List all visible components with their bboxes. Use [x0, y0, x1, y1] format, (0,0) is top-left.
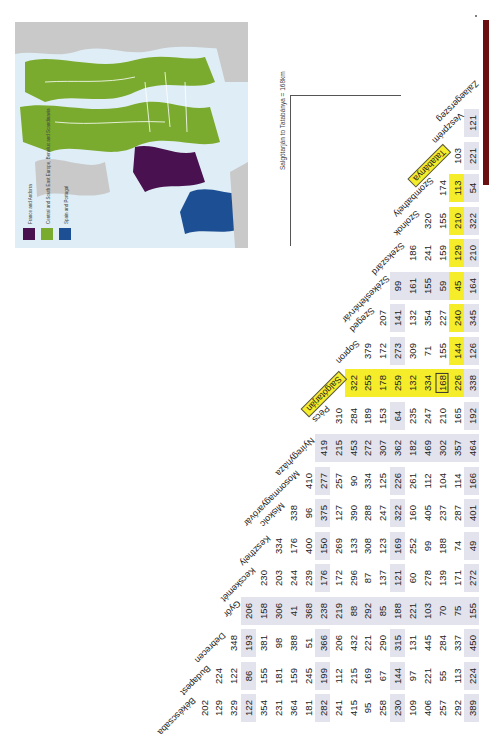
distance-value: 123 — [377, 538, 388, 554]
distance-value: 75 — [451, 605, 462, 616]
distance-cell: 338 — [285, 499, 300, 527]
distance-value: 215 — [332, 440, 343, 456]
distance-value: 419 — [317, 440, 328, 456]
distance-cell: 221 — [405, 597, 420, 625]
distance-value: 127 — [332, 505, 343, 521]
distance-value: 284 — [436, 635, 447, 651]
distance-cell: 171 — [449, 564, 464, 592]
distance-cell: 95 — [360, 694, 375, 722]
distance-value: 166 — [466, 473, 477, 489]
distance-cell: 307 — [375, 434, 390, 462]
distance-value: 164 — [466, 278, 477, 294]
distance-value: 49 — [466, 540, 477, 551]
distance-value: 464 — [466, 440, 477, 456]
distance-value: 245 — [302, 668, 313, 684]
distance-cell: 54 — [464, 174, 479, 202]
distance-cell: 273 — [390, 337, 405, 365]
distance-cell: 354 — [420, 304, 435, 332]
distance-cell: 75 — [449, 597, 464, 625]
distance-cell: 290 — [375, 629, 390, 657]
distance-cell: 322 — [345, 369, 360, 397]
distance-cell: 113 — [449, 174, 464, 202]
distance-cell: 70 — [434, 597, 449, 625]
distance-value: 181 — [302, 700, 313, 716]
distance-cell: 126 — [464, 337, 479, 365]
distance-cell: 155 — [464, 597, 479, 625]
distance-cell: 150 — [315, 532, 330, 560]
table-line-7: 41027725790334125226261112104114166 — [0, 473, 489, 489]
distance-value: 45 — [451, 280, 462, 291]
distance-cell: 292 — [360, 597, 375, 625]
distance-cell: 99 — [390, 272, 405, 300]
distance-value: 364 — [287, 700, 298, 716]
distance-cell: 224 — [211, 662, 226, 690]
distance-value: 338 — [287, 505, 298, 521]
distance-cell: 284 — [434, 629, 449, 657]
distance-value: 112 — [332, 668, 343, 683]
distance-cell: 165 — [449, 402, 464, 430]
legend-swatch-france — [23, 228, 35, 240]
distance-value: 210 — [436, 408, 447, 424]
distance-cell: 210 — [434, 402, 449, 430]
distance-value: 306 — [273, 603, 284, 619]
table-line-17: 103221 — [0, 148, 489, 164]
distance-value: 272 — [362, 440, 373, 456]
distance-value: 235 — [407, 408, 418, 424]
distance-value: 186 — [407, 245, 418, 261]
distance-cell: 381 — [256, 629, 271, 657]
distance-cell: 210 — [449, 207, 464, 235]
distance-value: 224 — [213, 668, 224, 684]
distance-value: 51 — [302, 638, 313, 649]
distance-cell: 144 — [390, 662, 405, 690]
distance-cell: 261 — [405, 467, 420, 495]
distance-cell: 241 — [330, 694, 345, 722]
distance-cell: 49 — [464, 532, 479, 560]
distance-value: 210 — [466, 245, 477, 261]
distance-cell: 445 — [420, 629, 435, 657]
distance-value: 241 — [332, 700, 343, 716]
distance-value: 150 — [317, 538, 328, 554]
distance-cell: 121 — [464, 109, 479, 137]
distance-cell: 172 — [375, 337, 390, 365]
distance-value: 182 — [407, 440, 418, 456]
table-line-8: 419215453272307362182469302357464 — [0, 440, 489, 456]
distance-cell: 129 — [449, 239, 464, 267]
distance-cell: 227 — [434, 304, 449, 332]
distance-cell: 55 — [434, 662, 449, 690]
distance-value: 237 — [436, 505, 447, 521]
distance-cell: 379 — [360, 337, 375, 365]
distance-value: 60 — [407, 573, 418, 584]
distance-cell: 338 — [464, 369, 479, 397]
table-line-11: 37917227330971155144126 — [0, 343, 489, 359]
distance-value: 125 — [377, 473, 388, 489]
distance-value: 172 — [377, 343, 388, 359]
distance-value: 176 — [317, 570, 328, 586]
distance-cell: 159 — [434, 239, 449, 267]
distance-cell: 99 — [420, 532, 435, 560]
distance-cell: 364 — [285, 694, 300, 722]
distance-value: 109 — [407, 700, 418, 716]
distance-value: 320 — [422, 213, 433, 229]
distance-cell: 345 — [464, 304, 479, 332]
distance-cell: 96 — [300, 499, 315, 527]
distance-value: 307 — [377, 440, 388, 456]
distance-value: 432 — [347, 635, 358, 651]
distance-cell: 252 — [405, 532, 420, 560]
distance-cell: 219 — [330, 597, 345, 625]
distance-value: 445 — [422, 635, 433, 651]
distance-value: 277 — [317, 473, 328, 489]
distance-value: 255 — [362, 375, 373, 391]
distance-value: 287 — [451, 505, 462, 521]
distance-value: 219 — [332, 603, 343, 619]
scan-speck — [475, 15, 477, 17]
distance-cell: 113 — [449, 662, 464, 690]
distance-value: 99 — [422, 540, 433, 551]
distance-value: 239 — [302, 570, 313, 586]
distance-value: 87 — [362, 573, 373, 584]
distance-value: 388 — [287, 635, 298, 651]
distance-cell: 86 — [241, 662, 256, 690]
distance-value: 401 — [466, 505, 477, 521]
distance-value: 230 — [392, 700, 403, 716]
distance-value: 171 — [451, 570, 462, 586]
distance-cell: 210 — [464, 239, 479, 267]
